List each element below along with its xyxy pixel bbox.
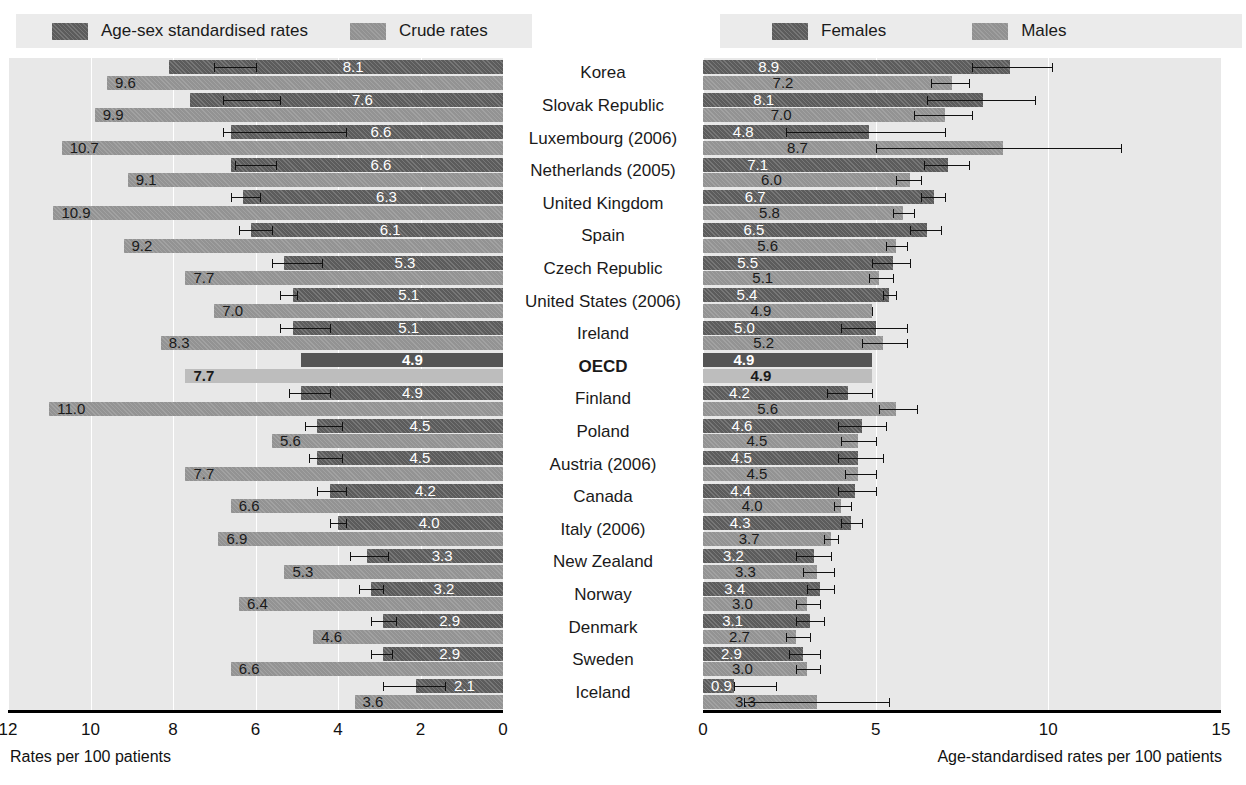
error-bar <box>972 67 1051 68</box>
error-bar-cap <box>734 682 735 691</box>
country-label: Czech Republic <box>508 259 698 279</box>
axis-tick-label: 2 <box>391 720 451 740</box>
bar <box>251 223 503 237</box>
bar <box>272 434 503 448</box>
error-bar <box>824 539 838 540</box>
error-bar <box>796 604 820 605</box>
error-bar-cap <box>239 226 240 235</box>
bar <box>703 402 896 416</box>
bar <box>703 516 851 530</box>
bar <box>128 173 503 187</box>
error-bar <box>893 213 914 214</box>
country-label: Ireland <box>508 324 698 344</box>
bar <box>703 158 948 172</box>
bar-value-label: 6.0 <box>761 173 782 187</box>
error-bar <box>744 702 889 703</box>
error-bar-cap <box>803 568 804 577</box>
error-bar <box>927 100 1034 101</box>
bar <box>703 386 848 400</box>
gridline <box>256 58 257 710</box>
axis-tick-label: 0 <box>473 720 533 740</box>
error-bar-cap <box>883 291 884 300</box>
bar-value-label: 4.0 <box>419 516 440 530</box>
bar-value-label: 2.9 <box>721 647 742 661</box>
error-bar-cap <box>907 339 908 348</box>
error-bar <box>838 426 886 427</box>
bar-value-label: 6.6 <box>370 125 391 139</box>
bar <box>703 614 810 628</box>
error-bar <box>371 621 396 622</box>
error-bar-cap <box>941 226 942 235</box>
bar <box>124 239 504 253</box>
bar <box>703 271 879 285</box>
error-bar-cap <box>786 128 787 137</box>
bar <box>53 206 503 220</box>
bar <box>703 467 858 481</box>
error-bar-cap <box>972 63 973 72</box>
bar-value-label: 5.6 <box>757 402 778 416</box>
bar-value-label: 4.5 <box>747 467 768 481</box>
error-bar <box>841 441 876 442</box>
error-bar-cap <box>872 307 873 316</box>
error-bar-cap <box>309 454 310 463</box>
bar <box>703 336 883 350</box>
error-bar-cap <box>824 535 825 544</box>
left-chart-axis-line <box>8 710 503 713</box>
error-bar-cap <box>910 259 911 268</box>
bar-value-label: 4.0 <box>742 499 763 513</box>
error-bar-cap <box>889 698 890 707</box>
error-bar <box>862 343 907 344</box>
error-bar <box>910 230 941 231</box>
bar-value-label: 5.2 <box>753 336 774 350</box>
bar-value-label: 2.9 <box>439 647 460 661</box>
error-bar-cap <box>346 519 347 528</box>
bar <box>243 190 503 204</box>
axis-tick-label: 10 <box>61 720 121 740</box>
error-bar <box>914 115 973 116</box>
country-label: Korea <box>508 63 698 83</box>
legend-swatch-light-icon <box>972 23 1008 40</box>
bar-value-label: 5.1 <box>398 288 419 302</box>
bar <box>703 190 934 204</box>
axis-tick-label: 5 <box>846 720 906 740</box>
error-bar-cap <box>807 585 808 594</box>
error-bar-cap <box>851 502 852 511</box>
error-bar-cap <box>862 519 863 528</box>
bar <box>703 304 872 318</box>
bar <box>231 499 503 513</box>
bar-value-label: 4.9 <box>750 304 771 318</box>
error-bar-cap <box>346 128 347 137</box>
error-bar-cap <box>276 161 277 170</box>
error-bar-cap <box>776 682 777 691</box>
error-bar <box>838 458 883 459</box>
axis-tick-label: 0 <box>673 720 733 740</box>
bar-value-label: 8.1 <box>753 93 774 107</box>
bar-value-label: 4.8 <box>733 125 754 139</box>
legend-item-males: Males <box>972 21 1066 41</box>
gridline <box>8 58 9 710</box>
bar-value-label: 4.9 <box>750 369 771 383</box>
country-label: Luxembourg (2006) <box>508 129 698 149</box>
bar-value-label: 3.0 <box>732 662 753 676</box>
bar-value-label: 4.2 <box>415 484 436 498</box>
error-bar-cap <box>289 389 290 398</box>
bar-value-label: 4.9 <box>402 353 423 367</box>
country-label: Canada <box>508 487 698 507</box>
bar <box>185 271 503 285</box>
error-bar-cap <box>945 128 946 137</box>
error-bar-cap <box>834 502 835 511</box>
error-bar-cap <box>820 665 821 674</box>
bar <box>703 353 872 367</box>
bar <box>703 499 841 513</box>
error-bar-cap <box>838 422 839 431</box>
legend-swatch-dark-icon <box>52 23 88 40</box>
bar-value-label: 5.1 <box>398 321 419 335</box>
bar <box>239 597 503 611</box>
bar-value-label: 4.9 <box>402 386 423 400</box>
bar-value-label: 7.1 <box>747 158 768 172</box>
bar-value-label: 8.7 <box>787 141 808 155</box>
right-chart-axis-line <box>703 710 1221 713</box>
error-bar <box>841 328 907 329</box>
error-bar-cap <box>350 552 351 561</box>
bar-value-label: 8.9 <box>758 60 779 74</box>
